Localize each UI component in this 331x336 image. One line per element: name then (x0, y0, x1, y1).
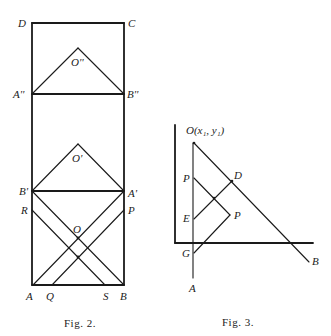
fig2-caption: Fig. 2. (64, 317, 96, 329)
fig2-line-o2b2 (78, 48, 124, 94)
fig3-label-e: E (182, 212, 190, 224)
fig2-point-o (77, 237, 80, 240)
fig3-label-p-right: P (233, 209, 241, 221)
fig3-label-a: A (188, 282, 196, 294)
fig3-label-b: B (312, 255, 319, 267)
fig2-label-r: R (20, 204, 28, 216)
fig2-label-c: C (128, 17, 136, 29)
fig2-point-lower-intersection (77, 256, 80, 259)
figure-3: O(x₁, y₁) P D E P G A B Fig. 3. (175, 124, 319, 328)
fig2-label-s: S (103, 290, 109, 302)
fig2-label-o: O (73, 223, 81, 235)
fig2-label-o1: O' (72, 152, 83, 164)
fig2-label-p: P (127, 204, 135, 216)
fig3-label-p-left: P (182, 172, 190, 184)
fig3-line-ed (194, 181, 232, 219)
fig2-line-o1a1 (78, 144, 124, 191)
fig3-point-o (193, 142, 196, 145)
fig2-label-b: B (120, 290, 127, 302)
fig2-label-a1: A' (127, 187, 138, 199)
fig2-label-b1: B' (19, 185, 29, 197)
fig3-label-g: G (182, 247, 190, 259)
fig2-label-q: Q (46, 290, 54, 302)
fig2-label-a: A (25, 290, 33, 302)
fig2-label-o2: O'' (71, 56, 84, 68)
figure-2: D C O'' A'' B'' O' B' A' R P O A Q S B F… (12, 17, 139, 329)
fig3-line-gp (194, 215, 230, 253)
fig3-label-d: D (233, 169, 242, 181)
fig3-caption: Fig. 3. (222, 316, 254, 328)
fig3-label-o: O(x₁, y₁) (186, 124, 225, 137)
fig2-label-b2: B'' (127, 88, 139, 100)
fig2-label-a2: A'' (12, 88, 25, 100)
fig3-point-intersection (213, 197, 216, 200)
diagram-canvas: D C O'' A'' B'' O' B' A' R P O A Q S B F… (0, 0, 331, 336)
fig3-point-d (231, 180, 234, 183)
fig2-line-a2o2 (32, 48, 78, 94)
fig3-line-pp (194, 178, 230, 215)
fig2-label-d: D (17, 17, 26, 29)
